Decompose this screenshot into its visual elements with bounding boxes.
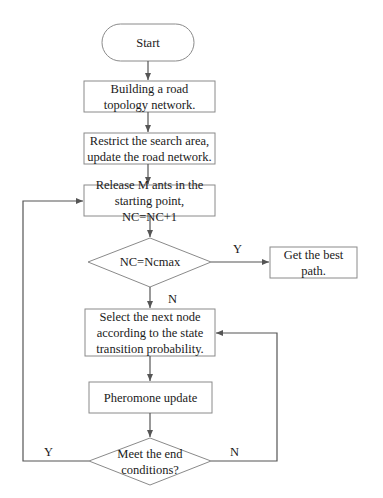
build-network-label: Building a road topology network. (88, 81, 211, 112)
pheromone-update-label: Pheromone update (89, 382, 212, 413)
select-node-label: Select the next node according to the st… (92, 309, 208, 356)
check-yes-label: Y (233, 242, 242, 257)
end-conditions-label: Meet the end conditions? (115, 445, 185, 479)
start-label: Start (102, 24, 194, 61)
end-no-label: N (230, 445, 239, 460)
release-ants-label: Release M ants in the starting point, NC… (90, 185, 209, 216)
edge-end-no-loop (211, 333, 277, 461)
end-yes-label: Y (44, 445, 53, 460)
check-no-label: N (168, 292, 177, 307)
restrict-search-label: Restrict the search area, update the roa… (86, 133, 213, 164)
nc-max-label: NC=Ncmax (105, 252, 195, 272)
edge-end-yes-loop (23, 201, 89, 461)
best-path-label: Get the best path. (270, 247, 357, 278)
